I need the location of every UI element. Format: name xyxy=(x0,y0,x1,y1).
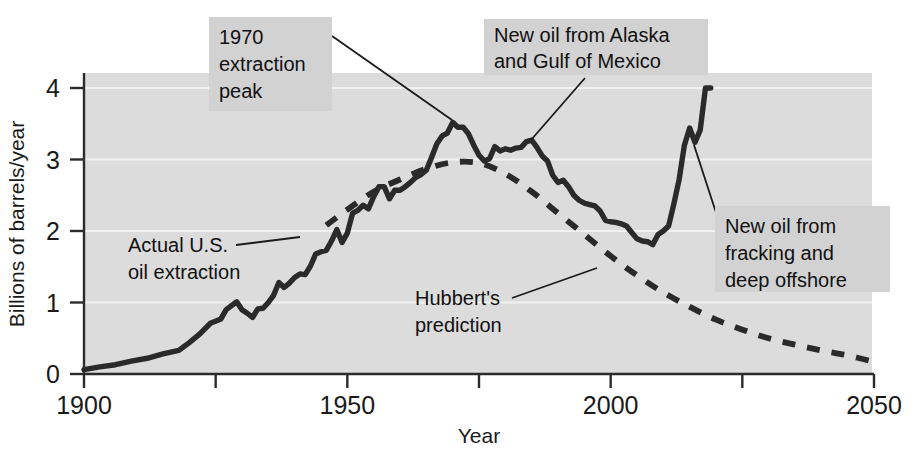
annotation-text: fracking and xyxy=(725,242,834,264)
x-tick-label: 2050 xyxy=(846,391,902,419)
annotation-text: and Gulf of Mexico xyxy=(494,50,661,72)
annotation-text: peak xyxy=(219,80,263,102)
y-tick-label: 1 xyxy=(46,289,60,317)
chart-figure: 1900195020002050 01234 1970extractionpea… xyxy=(0,0,919,466)
x-tick-label: 1950 xyxy=(320,391,376,419)
y-tick-label: 4 xyxy=(46,74,60,102)
y-tick-label: 0 xyxy=(46,360,60,388)
y-tick-label: 3 xyxy=(46,146,60,174)
annotation-text: oil extraction xyxy=(128,261,240,283)
y-tick-label: 2 xyxy=(46,217,60,245)
x-axis-ticks: 1900195020002050 xyxy=(56,374,902,419)
annotation-text: prediction xyxy=(415,314,502,336)
y-axis-ticks: 01234 xyxy=(46,74,84,388)
y-axis-title: Billions of barrels/year xyxy=(5,121,28,328)
annotation-text: New oil from xyxy=(725,215,836,237)
annotation-text: Actual U.S. xyxy=(128,234,228,256)
x-axis-title: Year xyxy=(458,424,500,447)
annotation-text: Hubbert's xyxy=(415,287,500,309)
annotation-text: extraction xyxy=(219,53,306,75)
x-tick-label: 1900 xyxy=(56,391,112,419)
oil-extraction-chart: 1900195020002050 01234 1970extractionpea… xyxy=(0,0,919,466)
annotation-text: deep offshore xyxy=(725,269,847,291)
x-tick-label: 2000 xyxy=(583,391,639,419)
annotation-text: 1970 xyxy=(219,26,264,48)
annotation-text: New oil from Alaska xyxy=(494,24,670,46)
